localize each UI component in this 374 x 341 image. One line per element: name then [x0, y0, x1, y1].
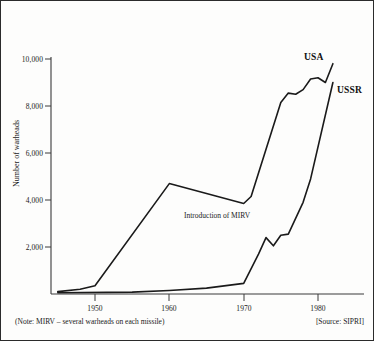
- x-tick-label-1950: 1950: [75, 304, 115, 313]
- series-label-ussr: USSR: [337, 85, 362, 95]
- y-tick-label-2000: 2,000: [9, 243, 43, 252]
- series-line-ussr: [58, 83, 333, 293]
- annotation-introduction-of-mirv: Introduction of MIRV: [184, 211, 250, 220]
- footer-note: (Note: MIRV – several warheads on each m…: [15, 317, 164, 326]
- x-tick-label-1980: 1980: [298, 304, 338, 313]
- y-axis-title: Number of warheads: [12, 104, 21, 204]
- series-label-usa: USA: [304, 52, 324, 62]
- footer-source: [Source: SIPRI]: [316, 317, 364, 326]
- figure-footer: (Note: MIRV – several warheads on each m…: [1, 317, 373, 337]
- x-tick-label-1970: 1970: [224, 304, 264, 313]
- axes-group: [45, 57, 364, 301]
- x-tick-label-1960: 1960: [149, 304, 189, 313]
- chart-figure: 10,000 8,000 6,000 4,000 2,000 1950 1960…: [0, 0, 374, 341]
- y-tick-label-10000: 10,000: [9, 55, 43, 64]
- series-line-usa: [58, 64, 333, 292]
